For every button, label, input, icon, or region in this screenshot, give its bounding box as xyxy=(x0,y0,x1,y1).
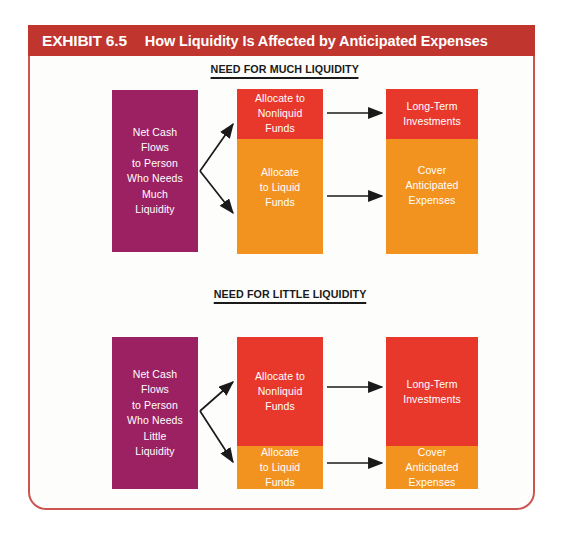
section-heading-much-liquidity: NEED FOR MUCH LIQUIDITY xyxy=(211,63,359,79)
exhibit-header-banner: EXHIBIT 6.5 How Liquidity Is Affected by… xyxy=(28,25,535,56)
allocation-segment-liquid: Allocate to Liquid Funds xyxy=(237,139,323,255)
use-segment-cover-anticipated-expenses-label: Cover Anticipated Expenses xyxy=(405,163,458,208)
exhibit-number-label: EXHIBIT 6.5 xyxy=(42,32,127,50)
use-segment-long-term-investments-label: Long-Term Investments xyxy=(403,377,461,407)
source-box-much-liquidity: Net Cash Flows to Person Who Needs Much … xyxy=(112,90,198,252)
allocation-segment-liquid-label: Allocate to Liquid Funds xyxy=(260,165,301,210)
use-segment-cover-anticipated-expenses-label: Cover Anticipated Expenses xyxy=(405,445,458,490)
allocation-segment-liquid-label: Allocate to Liquid Funds xyxy=(260,445,301,490)
use-segment-long-term-investments: Long-Term Investments xyxy=(386,89,478,139)
source-box-label: Net Cash Flows to Person Who Needs Much … xyxy=(127,125,183,218)
allocation-segment-nonliquid-label: Allocate to Nonliquid Funds xyxy=(255,369,305,414)
allocation-box-little-liquidity: Allocate to Nonliquid Funds Allocate to … xyxy=(237,337,323,489)
use-box-little-liquidity: Long-Term Investments Cover Anticipated … xyxy=(386,337,478,489)
use-box-much-liquidity: Long-Term Investments Cover Anticipated … xyxy=(386,89,478,254)
use-segment-long-term-investments-label: Long-Term Investments xyxy=(403,99,461,129)
use-segment-long-term-investments: Long-Term Investments xyxy=(386,337,478,446)
use-segment-cover-anticipated-expenses: Cover Anticipated Expenses xyxy=(386,139,478,255)
allocation-segment-nonliquid: Allocate to Nonliquid Funds xyxy=(237,337,323,446)
source-box-label: Net Cash Flows to Person Who Needs Littl… xyxy=(127,367,183,460)
exhibit-title: How Liquidity Is Affected by Anticipated… xyxy=(145,33,488,49)
source-box-little-liquidity: Net Cash Flows to Person Who Needs Littl… xyxy=(112,337,198,489)
allocation-segment-liquid: Allocate to Liquid Funds xyxy=(237,446,323,489)
use-segment-cover-anticipated-expenses: Cover Anticipated Expenses xyxy=(386,446,478,489)
allocation-segment-nonliquid-label: Allocate to Nonliquid Funds xyxy=(255,91,305,136)
allocation-box-much-liquidity: Allocate to Nonliquid Funds Allocate to … xyxy=(237,89,323,254)
section-heading-little-liquidity: NEED FOR LITTLE LIQUIDITY xyxy=(214,288,367,304)
allocation-segment-nonliquid: Allocate to Nonliquid Funds xyxy=(237,89,323,139)
